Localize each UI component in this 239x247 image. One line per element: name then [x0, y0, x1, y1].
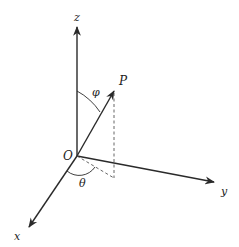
- theta-label: θ: [79, 177, 86, 190]
- spherical-coordinates-diagram: z y x O P φ θ: [0, 0, 239, 247]
- point-label: P: [118, 74, 128, 88]
- y-axis-label: y: [220, 185, 228, 198]
- z-axis-label: z: [73, 11, 80, 24]
- origin-label: O: [63, 149, 73, 163]
- theta-angle-arc: [67, 167, 95, 175]
- op-vector: [77, 91, 114, 156]
- phi-label: φ: [92, 86, 100, 99]
- x-axis-label: x: [14, 230, 21, 243]
- y-axis: [77, 156, 214, 182]
- x-axis: [29, 156, 77, 227]
